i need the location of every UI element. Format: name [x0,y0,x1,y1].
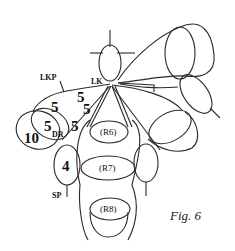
upper-right-lobes [118,24,220,119]
diagram-canvas: LKP LK 5 5 5 5 DR 5 10 4 SP (R6) (R7) (R… [0,0,235,251]
region-r7: (R7) [99,163,116,173]
central-column [77,120,140,240]
region-r6: (R6) [100,127,117,137]
number-5-dr: 5 [44,118,52,134]
number-4: 4 [62,158,70,174]
figure-caption: Fig. 6 [169,208,202,223]
number-5-upper-left: 5 [51,99,59,115]
label-lk: LK [91,77,103,86]
number-5-upper-mid-b: 5 [83,101,91,117]
number-5-right-of-dr: 5 [71,118,79,134]
label-lkp: LKP [40,73,57,82]
number-10: 10 [24,130,39,146]
diagram-figure: LKP LK 5 5 5 5 DR 5 10 4 SP (R6) (R7) (R… [0,0,235,251]
top-node [90,30,135,81]
label-sp: SP [52,191,61,200]
label-dr: DR [52,130,64,139]
right-lobes [134,103,198,196]
region-r8: (R8) [100,204,117,214]
